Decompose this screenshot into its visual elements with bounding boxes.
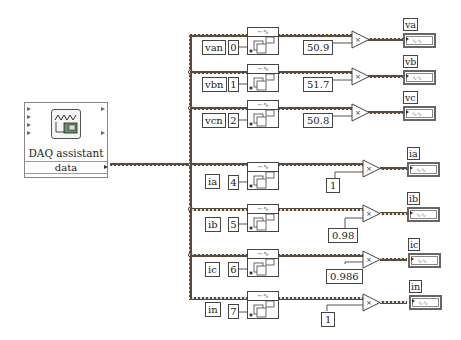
index-constant[interactable]: 2 (228, 113, 239, 128)
waveform-indicator-ia[interactable]: ∿∿ (407, 162, 440, 177)
index-constant[interactable]: 0 (228, 40, 239, 55)
channel-label-vcn: vcn (202, 113, 226, 128)
multiply-icon: × (366, 299, 372, 307)
scale-constant[interactable]: 1 (326, 178, 340, 193)
scale-constant[interactable]: 50.8 (303, 113, 333, 128)
waveform-icon: ~∿ (248, 205, 278, 214)
index-waveform-subvi[interactable]: ~∿ (247, 27, 279, 55)
index-constant[interactable]: 5 (228, 217, 239, 232)
scale-constant[interactable]: 51.7 (303, 77, 333, 92)
input-terminal[interactable] (27, 131, 31, 135)
indicator-label: ia (407, 147, 420, 160)
multiply-icon: × (355, 109, 361, 117)
daq-card-icon (51, 109, 81, 139)
indicator-waveform-glyph: ∿∿ (410, 165, 437, 174)
scale-constant[interactable]: 0.98 (328, 228, 358, 243)
scale-constant[interactable]: 1 (321, 312, 335, 327)
data-output-label: data (55, 162, 77, 173)
indicator-label: vc (403, 91, 418, 104)
daq-title: DAQ assistant (25, 147, 107, 159)
channel-label-van: van (202, 40, 226, 55)
indicator-waveform-glyph: ∿∿ (412, 298, 439, 307)
indicator-label: in (409, 280, 422, 293)
indicator-waveform-glyph: ∿∿ (410, 210, 437, 219)
multiply-icon: × (366, 165, 372, 173)
index-waveform-subvi[interactable]: ~∿ (247, 249, 279, 277)
index-constant[interactable]: 6 (228, 262, 239, 277)
index-waveform-subvi[interactable]: ~∿ (247, 162, 279, 190)
indicator-waveform-glyph: ∿∿ (406, 36, 433, 45)
waveform-indicator-in[interactable]: ∿∿ (409, 295, 442, 310)
input-terminal[interactable] (27, 107, 31, 111)
index-constant[interactable]: 1 (228, 77, 239, 92)
waveform-indicator-ib[interactable]: ∿∿ (407, 207, 440, 222)
index-waveform-subvi[interactable]: ~∿ (247, 100, 279, 128)
waveform-indicator-vb[interactable]: ∿∿ (403, 70, 436, 85)
waveform-icon: ~∿ (248, 28, 278, 37)
multiply-icon: × (366, 210, 372, 218)
index-constant[interactable]: 4 (228, 175, 239, 190)
indicator-label: va (403, 18, 418, 31)
waveform-icon: ~∿ (248, 292, 278, 301)
empty-row (25, 173, 107, 179)
channel-label-ia: ia (205, 174, 220, 189)
daq-assistant-block[interactable]: DAQ assistant data (24, 102, 108, 178)
scale-constant[interactable]: 0.986 (326, 269, 363, 284)
input-terminal[interactable] (27, 123, 31, 127)
index-waveform-subvi[interactable]: ~∿ (247, 204, 279, 232)
indicator-label: vb (403, 55, 418, 68)
waveform-icon: ~∿ (248, 163, 278, 172)
waveform-indicator-ic[interactable]: ∿∿ (408, 253, 441, 268)
waveform-indicator-va[interactable]: ∿∿ (403, 33, 436, 48)
multiply-icon: × (355, 36, 361, 44)
indicator-waveform-glyph: ∿∿ (411, 256, 438, 265)
index-waveform-subvi[interactable]: ~∿ (247, 291, 279, 319)
indicator-waveform-glyph: ∿∿ (406, 73, 433, 82)
waveform-indicator-vc[interactable]: ∿∿ (403, 106, 436, 121)
output-terminal[interactable] (101, 131, 105, 135)
multiply-icon: × (366, 256, 372, 264)
input-terminal[interactable] (27, 115, 31, 119)
waveform-icon: ~∿ (248, 101, 278, 110)
channel-label-in: in (205, 302, 221, 317)
scale-constant[interactable]: 50.9 (303, 40, 333, 55)
data-output-terminal[interactable] (104, 165, 108, 169)
indicator-label: ib (407, 192, 420, 205)
multiply-icon: × (355, 73, 361, 81)
indicator-label: ic (408, 238, 420, 251)
waveform-icon: ~∿ (248, 250, 278, 259)
channel-label-ic: ic (205, 262, 220, 277)
channel-label-ib: ib (205, 217, 221, 232)
channel-label-vbn: vbn (202, 77, 227, 92)
waveform-icon: ~∿ (248, 65, 278, 74)
index-waveform-subvi[interactable]: ~∿ (247, 64, 279, 92)
index-constant[interactable]: 7 (228, 304, 239, 319)
output-terminal[interactable] (101, 107, 105, 111)
indicator-waveform-glyph: ∿∿ (406, 109, 433, 118)
